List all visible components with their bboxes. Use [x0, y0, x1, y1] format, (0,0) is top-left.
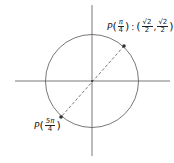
denominator: 2	[145, 27, 149, 34]
denominator: 2	[161, 27, 165, 34]
label-p-pi-4: P ( π 4 ) : ( √2 2 , √2 2 )	[107, 19, 174, 34]
fraction-x: √2 2	[142, 19, 153, 34]
denominator: 4	[119, 27, 123, 34]
separator: :	[131, 22, 134, 32]
paren-close: )	[125, 20, 129, 33]
comma: ,	[154, 22, 157, 32]
fraction-5pi-4: 5π 4	[45, 118, 56, 133]
paren-open: (	[136, 20, 140, 33]
paren-close: )	[56, 119, 60, 132]
paren-close: )	[169, 20, 173, 33]
point-p-pi-4	[122, 44, 126, 48]
fraction-y: √2 2	[157, 19, 168, 34]
paren-open: (	[112, 20, 116, 33]
label-p-5pi-4: P ( 5π 4 )	[34, 118, 61, 133]
denominator: 4	[48, 126, 52, 133]
origin-point	[91, 80, 93, 82]
fraction-pi-4: π 4	[118, 19, 124, 34]
paren-open: (	[39, 119, 43, 132]
